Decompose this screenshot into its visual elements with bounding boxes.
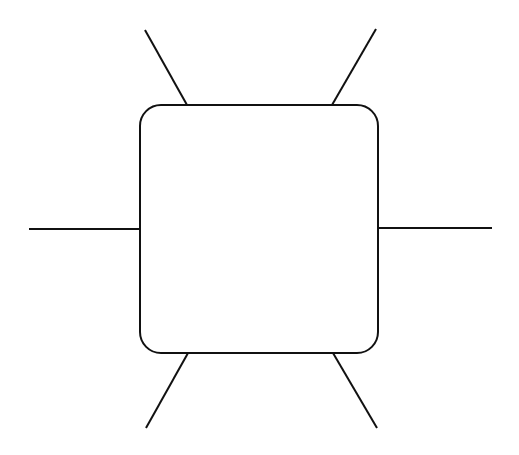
connector-line-bottom-left <box>146 353 188 428</box>
diagram-canvas <box>0 0 519 455</box>
central-rounded-square-node <box>140 105 378 353</box>
diagram-svg <box>0 0 519 455</box>
connector-line-top-right <box>332 29 376 105</box>
connector-line-bottom-right <box>333 353 377 428</box>
connector-line-top-left <box>145 30 187 105</box>
